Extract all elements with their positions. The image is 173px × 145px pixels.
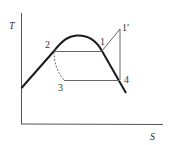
ts-diagram: T S 2 1 1′ 3 4 — [0, 0, 173, 145]
point-label-1prime: 1′ — [122, 22, 129, 33]
point-label-2: 2 — [45, 39, 50, 50]
x-axis — [21, 124, 163, 125]
point-label-4: 4 — [124, 74, 129, 85]
dashed-curve-2-3 — [54, 52, 64, 80]
point-label-1: 1 — [100, 36, 105, 47]
point-label-3: 3 — [58, 82, 63, 93]
y-axis-label: T — [9, 20, 16, 31]
x-axis-label: S — [150, 131, 155, 142]
saturation-dome — [22, 35, 127, 93]
diagram-svg: T S 2 1 1′ 3 4 — [0, 0, 173, 145]
